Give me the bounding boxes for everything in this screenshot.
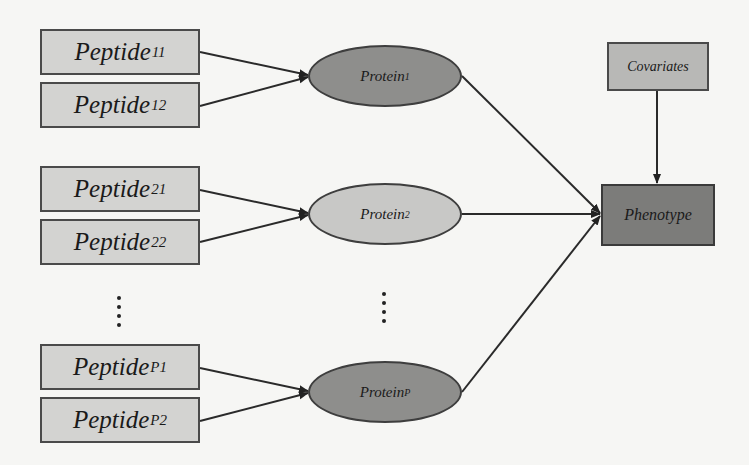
- node-label: Peptide: [73, 353, 149, 381]
- node-label: Protein: [360, 384, 404, 401]
- node-label: Covariates: [627, 59, 688, 75]
- node-subscript: 11: [152, 44, 166, 61]
- node-label: Peptide: [74, 38, 150, 66]
- peptide-p2-node: PeptideP2: [40, 397, 200, 443]
- node-label: Peptide: [73, 406, 149, 434]
- peptide-22-node: Peptide22: [40, 219, 200, 265]
- node-subscript: P1: [150, 359, 167, 376]
- node-label: Protein: [360, 68, 404, 85]
- peptide-p1-node: PeptideP1: [40, 344, 200, 390]
- protein-1-node: Protein1: [308, 45, 462, 107]
- node-label: Protein: [360, 206, 404, 223]
- protein-ellipsis: [382, 292, 386, 323]
- diagram-canvas: Peptide11 Peptide12 Peptide21 Peptide22 …: [0, 0, 749, 465]
- peptide-ellipsis: [117, 296, 121, 327]
- peptide-12-node: Peptide12: [40, 82, 200, 128]
- peptide-11-node: Peptide11: [40, 29, 200, 75]
- protein-p-node: ProteinP: [308, 361, 462, 423]
- node-subscript: P2: [150, 412, 167, 429]
- node-subscript: P: [404, 387, 410, 398]
- covariates-node: Covariates: [607, 42, 709, 91]
- protein-2-node: Protein2: [308, 183, 462, 245]
- node-subscript: 21: [151, 181, 166, 198]
- node-label: Phenotype: [624, 206, 692, 224]
- peptide-21-node: Peptide21: [40, 166, 200, 212]
- node-label: Peptide: [74, 91, 150, 119]
- node-subscript: 1: [405, 71, 410, 82]
- node-subscript: 22: [151, 234, 166, 251]
- node-label: Peptide: [74, 228, 150, 256]
- node-subscript: 12: [151, 97, 166, 114]
- phenotype-node: Phenotype: [601, 184, 715, 246]
- node-subscript: 2: [405, 209, 410, 220]
- node-label: Peptide: [74, 175, 150, 203]
